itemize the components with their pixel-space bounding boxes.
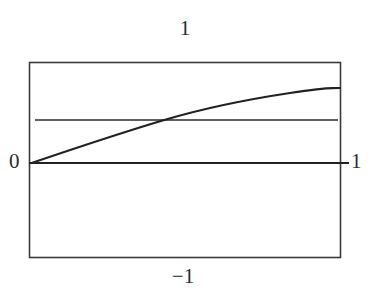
plot-area: [0, 0, 374, 297]
data-curve: [32, 88, 341, 163]
figure-container: 1 −1 0 1: [0, 0, 374, 297]
